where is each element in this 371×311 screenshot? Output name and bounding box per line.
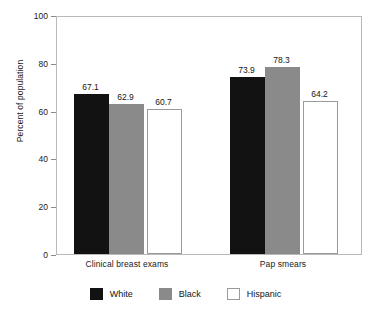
bar-value-label: 62.9: [117, 92, 134, 102]
bar-hispanic-1: [147, 109, 182, 254]
x-axis-category-label: Clinical breast exams: [86, 259, 169, 269]
bar-white-2: [230, 77, 265, 254]
bar-value-label: 67.1: [82, 82, 99, 92]
y-axis-tick-label: 0: [8, 250, 48, 260]
plot-area: [56, 16, 362, 255]
bar-black-2: [265, 67, 300, 254]
x-axis-category-label: Pap smears: [260, 259, 306, 269]
legend-swatch-icon: [90, 288, 103, 300]
bar-value-label: 78.3: [273, 55, 290, 65]
chart-legend: WhiteBlackHispanic: [0, 288, 371, 300]
y-axis-tick-label: 60: [8, 107, 48, 117]
legend-item-label: Black: [179, 289, 201, 299]
bar-black-1: [109, 104, 144, 254]
bar-value-label: 64.2: [311, 89, 328, 99]
legend-swatch-icon: [227, 288, 240, 300]
y-axis-tick-label: 40: [8, 154, 48, 164]
y-axis-tick-mark: [51, 255, 56, 256]
bar-hispanic-2: [303, 101, 338, 254]
legend-item-label: Hispanic: [247, 289, 282, 299]
legend-item-label: White: [110, 289, 133, 299]
legend-swatch-icon: [159, 288, 172, 300]
bar-white-1: [74, 94, 109, 254]
legend-item-white[interactable]: White: [90, 288, 133, 300]
y-axis-tick-label: 80: [8, 59, 48, 69]
y-axis-tick-label: 100: [8, 11, 48, 21]
bar-chart-figure: Percent of population 020406080100 67.16…: [0, 0, 371, 311]
bar-value-label: 60.7: [155, 97, 172, 107]
y-axis-tick-label: 20: [8, 202, 48, 212]
legend-item-hispanic[interactable]: Hispanic: [227, 288, 282, 300]
legend-item-black[interactable]: Black: [159, 288, 201, 300]
bar-value-label: 73.9: [238, 65, 255, 75]
